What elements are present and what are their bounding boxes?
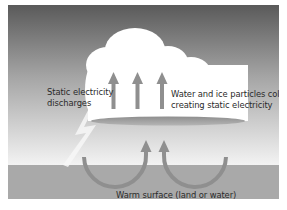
label-line: Water and ice particles collide — [171, 89, 279, 100]
cloud-base-ellipse — [91, 117, 245, 126]
diagram-frame: Static electricity discharges Water and … — [8, 5, 279, 199]
label-warm-surface: Warm surface (land or water) — [116, 190, 236, 199]
label-particles-collide: Water and ice particles collide creating… — [171, 89, 279, 110]
label-line: creating static electricity — [171, 100, 279, 111]
label-line: Static electricity — [47, 87, 113, 98]
label-line: discharges — [47, 98, 113, 109]
label-static-discharge: Static electricity discharges — [47, 87, 113, 108]
